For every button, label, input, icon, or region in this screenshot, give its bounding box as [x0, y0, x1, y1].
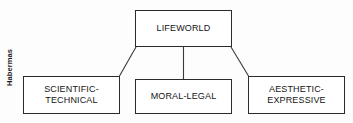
connector-left [120, 47, 137, 76]
diagram-canvas: Habermas LIFEWORLD SCIENTIFIC- TECHNICAL… [0, 0, 353, 123]
node-aesthetic-expressive-label: AESTHETIC- EXPRESSIVE [267, 84, 326, 106]
node-moral-legal: MORAL-LEGAL [135, 79, 232, 114]
node-moral-legal-label: MORAL-LEGAL [151, 91, 217, 102]
node-scientific-technical: SCIENTIFIC- TECHNICAL [23, 76, 120, 114]
connector-right [231, 47, 249, 76]
node-lifeworld: LIFEWORLD [135, 10, 232, 47]
node-scientific-technical-label: SCIENTIFIC- TECHNICAL [44, 84, 99, 106]
node-lifeworld-label: LIFEWORLD [157, 23, 211, 34]
node-aesthetic-expressive: AESTHETIC- EXPRESSIVE [248, 76, 345, 114]
